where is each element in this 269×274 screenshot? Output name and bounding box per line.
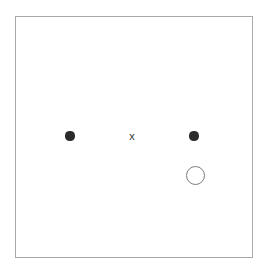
data-point-open-circle[interactable] (186, 166, 205, 185)
data-point-x-center[interactable]: x (124, 131, 141, 142)
marker-layer: x (0, 0, 269, 274)
figure-canvas: x (0, 0, 269, 274)
data-point-dot-left[interactable] (65, 131, 74, 140)
data-point-dot-right[interactable] (189, 131, 198, 140)
